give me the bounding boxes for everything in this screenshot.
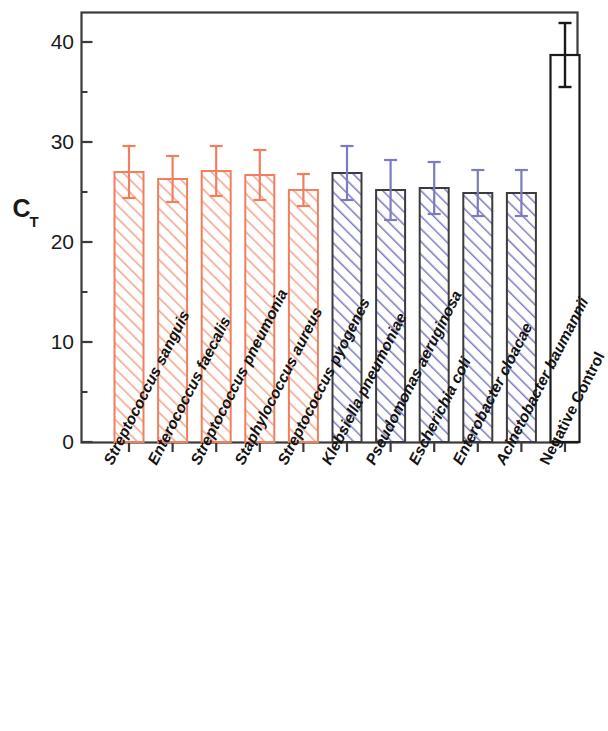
x-tick-label-group: Streptococcus sanguisEnterococcus faecal… bbox=[0, 442, 593, 731]
plot-area bbox=[0, 0, 593, 470]
